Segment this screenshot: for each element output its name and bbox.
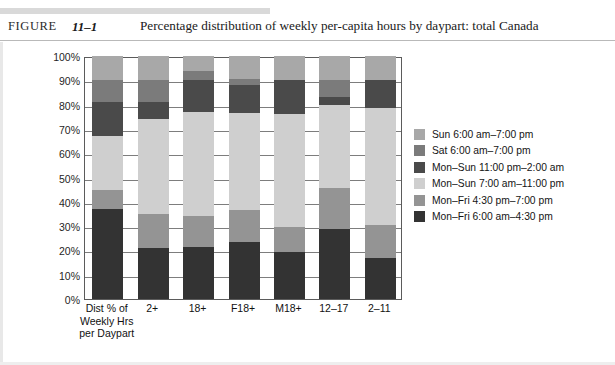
figure-number: 11–1 <box>72 19 97 35</box>
bar-segment <box>138 248 169 299</box>
legend-swatch-icon <box>414 145 425 156</box>
legend-item-label: Mon–Sun 11:00 pm–2:00 am <box>432 162 564 173</box>
bar-segment <box>319 80 350 97</box>
x-axis-tick-line: 2–11 <box>346 302 412 315</box>
bar-segment <box>229 56 260 79</box>
bar-stack <box>365 56 396 299</box>
y-axis-tick-label: 60% <box>40 148 80 160</box>
bar-segment <box>92 56 123 80</box>
legend-item-label: Mon–Sun 7:00 am–11:00 pm <box>432 178 564 189</box>
x-axis-tick-label: 2–11 <box>346 302 412 315</box>
bar-segment <box>183 71 214 81</box>
legend-item-label: Mon–Fri 4:30 pm–7:00 pm <box>432 195 553 206</box>
bar-segment <box>229 113 260 210</box>
bar-segment <box>319 188 350 228</box>
figure-caption: Percentage distribution of weekly per-ca… <box>140 18 539 34</box>
bar-segment <box>274 114 305 227</box>
legend-item[interactable]: Sun 6:00 am–7:00 pm <box>414 126 610 143</box>
header-rule-top <box>0 8 270 14</box>
bar-segment <box>183 247 214 299</box>
bar-segment <box>138 119 169 214</box>
bar-segment <box>365 56 396 80</box>
legend-item-label: Sun 6:00 am–7:00 pm <box>432 129 533 140</box>
x-axis-tick-line: Weekly Hrs <box>74 315 140 328</box>
figure-header: FIGURE 11–1 Percentage distribution of w… <box>0 0 615 42</box>
bar-segment <box>92 80 123 102</box>
bar-segment <box>183 80 214 112</box>
bar-stack <box>92 56 123 299</box>
legend-item[interactable]: Mon–Fri 4:30 pm–7:00 pm <box>414 192 610 209</box>
y-axis-tick-label: 20% <box>40 245 80 257</box>
bar-segment <box>274 252 305 299</box>
bar-segment <box>138 80 169 102</box>
bar-stack <box>138 56 169 299</box>
bar-segment <box>365 258 396 299</box>
bar-segment <box>138 214 169 248</box>
bar-stack <box>274 56 305 299</box>
bar-segment <box>229 242 260 299</box>
legend-item-label: Mon–Fri 6:00 am–4:30 pm <box>432 211 553 222</box>
bar-segment <box>183 216 214 246</box>
bar-segment <box>365 225 396 258</box>
bar-segment <box>274 80 305 114</box>
bar-segment <box>365 80 396 108</box>
bar-segment <box>92 209 123 299</box>
x-axis-tick-line: per Daypart <box>74 327 140 340</box>
legend-item[interactable]: Mon–Sun 11:00 pm–2:00 am <box>414 159 610 176</box>
bar-segment <box>183 112 214 216</box>
bar-stack <box>229 56 260 299</box>
bar-segment <box>138 56 169 80</box>
legend-swatch-icon <box>414 211 425 222</box>
bar-segment <box>138 102 169 119</box>
bar-segment <box>319 56 350 80</box>
chart-legend: Sun 6:00 am–7:00 pmSat 6:00 am–7:00 pmMo… <box>414 126 610 225</box>
bar-segment <box>274 227 305 251</box>
y-axis-labels: 100%90%80%70%60%50%40%30%20%10%0% <box>36 57 80 300</box>
y-axis-tick-label: 40% <box>40 197 80 209</box>
header-rule-bottom <box>0 40 615 41</box>
bar-stack <box>319 56 350 299</box>
y-axis-tick-label: 30% <box>40 221 80 233</box>
y-axis-tick-label: 80% <box>40 100 80 112</box>
bar-segment <box>92 102 123 136</box>
chart-area: 100%90%80%70%60%50%40%30%20%10%0% Dist %… <box>0 42 615 365</box>
legend-item-label: Sat 6:00 am–7:00 pm <box>432 145 530 156</box>
y-axis-tick-label: 100% <box>40 51 80 63</box>
bar-segment <box>229 210 260 242</box>
legend-swatch-icon <box>414 195 425 206</box>
legend-swatch-icon <box>414 129 425 140</box>
legend-swatch-icon <box>414 162 425 173</box>
x-axis-labels: Dist % ofWeekly Hrsper Daypart2+18+F18+M… <box>84 302 402 364</box>
y-axis-tick-label: 90% <box>40 75 80 87</box>
bar-segment <box>183 56 214 71</box>
figure-label: FIGURE <box>8 19 57 34</box>
y-axis-tick-label: 50% <box>40 173 80 185</box>
bar-segment <box>92 190 123 209</box>
bar-segment <box>319 229 350 299</box>
legend-swatch-icon <box>414 178 425 189</box>
legend-item[interactable]: Mon–Fri 6:00 am–4:30 pm <box>414 209 610 226</box>
bar-segment <box>319 105 350 189</box>
y-axis-tick-label: 70% <box>40 124 80 136</box>
bar-segment <box>92 136 123 189</box>
bar-segment <box>319 97 350 104</box>
bar-segment <box>229 79 260 85</box>
plot-area <box>84 57 402 300</box>
bar-stack <box>183 56 214 299</box>
y-axis-tick-label: 10% <box>40 270 80 282</box>
legend-item[interactable]: Sat 6:00 am–7:00 pm <box>414 143 610 160</box>
bar-segment <box>365 108 396 225</box>
bar-segment <box>274 56 305 80</box>
bar-segment <box>229 85 260 113</box>
legend-item[interactable]: Mon–Sun 7:00 am–11:00 pm <box>414 176 610 193</box>
